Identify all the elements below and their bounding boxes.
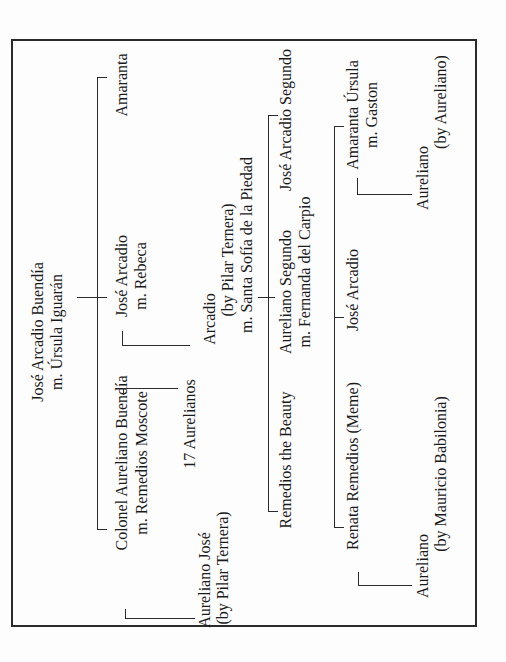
colonel-aureliano-spouse: m. Remedios Moscote (133, 391, 151, 535)
amaranta-ursula-bracket-v (357, 178, 358, 195)
aureliano-last-name: Aureliano (414, 146, 432, 210)
gen3-bus-line (268, 115, 269, 512)
gen3-connector (258, 297, 275, 298)
gen4-tick-top (334, 126, 344, 127)
jose-arcadio-gen4: José Arcadio (344, 249, 362, 331)
jose-arcadio-spouse: m. Rebeca (132, 242, 150, 310)
jose-arcadio-bracket-v (122, 331, 123, 345)
aureliano-last-note: (by Aureliano) (432, 55, 450, 149)
aureliano-jose-note: (by Pilar Ternera) (214, 511, 232, 624)
amaranta-ursula-bracket-h (357, 194, 412, 195)
jose-arcadio-name: José Arcadio (113, 235, 131, 317)
aureliano-segundo-name: Aureliano Segundo (277, 230, 295, 354)
aureliano-jose-bracket-v (125, 609, 126, 618)
aureliano-jose-bracket-h (125, 618, 195, 619)
amaranta-ursula-spouse: m. Gaston (363, 82, 381, 148)
amaranta-ursula-name: Amaranta Úrsula (344, 60, 362, 170)
remedios-the-beauty: Remedios the Beauty (277, 392, 295, 529)
diagram-frame (11, 39, 477, 627)
amaranta: Amaranta (113, 53, 131, 116)
gen4-bus-line (334, 126, 335, 528)
gen4-tick-jose-arcadio (334, 317, 344, 318)
jose-arcadio-bracket-h (122, 345, 190, 346)
aureliano-segundo-spouse: m. Fernanda del Carpio (296, 196, 314, 347)
arcadio-note: (by Pilar Ternera) (219, 203, 237, 316)
gen2-tick-amaranta (97, 77, 107, 78)
root-connector (77, 297, 107, 298)
seventeen-aurelianos: 17 Aurelianos (181, 379, 199, 468)
renata-bracket-h (358, 585, 412, 586)
arcadio-spouse: m. Santa Sofía de la Piedad (238, 157, 256, 333)
arcadio-name: Arcadio (201, 293, 219, 345)
aureliano-jose-name: Aureliano José (196, 532, 214, 628)
gen2-tick-colonel (97, 529, 107, 530)
root-name: José Arcadio Buendía (29, 262, 47, 402)
gen4-tick-bottom (334, 527, 344, 528)
jose-arcadio-segundo: José Arcadio Segundo (277, 49, 295, 191)
aureliano-babilonia-note: (by Mauricio Babilonia) (432, 396, 450, 552)
aureliano-babilonia-name: Aureliano (414, 534, 432, 598)
gen2-bus-line (97, 77, 98, 530)
root-spouse: m. Úrsula Iguarán (48, 274, 66, 390)
aurelianos-bracket-h (123, 388, 178, 389)
renata-bracket-v (358, 572, 359, 586)
renata-remedios: Renata Remedios (Meme) (344, 382, 362, 550)
colonel-aureliano-name: Colonel Aureliano Buendía (113, 375, 131, 550)
